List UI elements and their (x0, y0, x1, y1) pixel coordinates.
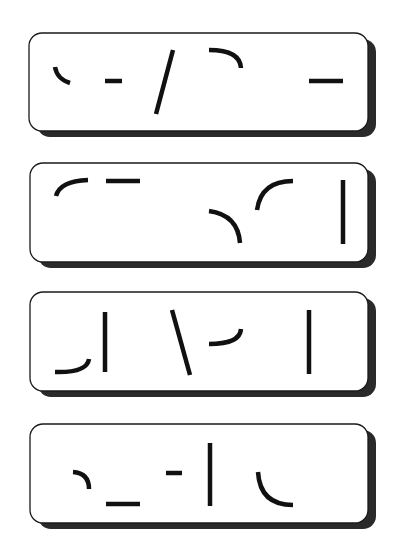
card-3 (30, 292, 376, 397)
card-4 (30, 424, 376, 529)
panels-group (29, 33, 376, 529)
card-body (30, 292, 368, 391)
card-2 (30, 163, 376, 268)
figure-canvas (0, 0, 397, 542)
card-body (30, 163, 368, 262)
card-1 (29, 33, 376, 137)
